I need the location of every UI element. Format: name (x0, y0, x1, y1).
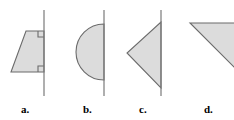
item-label-a: a. (21, 104, 29, 115)
diagram-item-b (76, 10, 104, 96)
diagram-item-d (190, 23, 234, 81)
item-label-b: b. (83, 104, 92, 115)
geometry-figure: a. b. c. d. (0, 0, 234, 120)
semicircle-shape-b (76, 24, 104, 80)
triangle-shape-d (190, 23, 234, 81)
item-label-c: c. (139, 104, 147, 115)
geometry-canvas (0, 0, 234, 120)
diagram-item-a (11, 10, 44, 96)
item-label-d: d. (204, 104, 213, 115)
diagram-item-c (127, 10, 161, 96)
triangle-shape-c (127, 22, 161, 88)
